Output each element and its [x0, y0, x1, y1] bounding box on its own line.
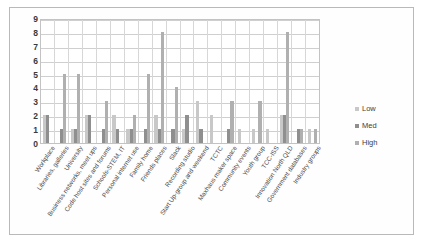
x-axis-labels: WorkplaceLibraries, galleriesUniversityB… [40, 145, 320, 240]
bar-med [46, 115, 49, 143]
y-axis-tick: 7 [33, 43, 38, 52]
legend-label: High [362, 138, 377, 147]
y-axis-tick: 1 [33, 126, 38, 135]
y-axis: 9876543210 [24, 12, 38, 151]
y-axis-tick: 5 [33, 70, 38, 79]
legend-label: Low [362, 104, 376, 113]
chart-container: 9876543210 WorkplaceLibraries, galleries… [9, 7, 414, 235]
y-axis-tick: 9 [33, 15, 38, 24]
legend-swatch-icon [355, 124, 359, 128]
legend-item-low[interactable]: Low [355, 100, 407, 117]
y-axis-tick: 0 [33, 140, 38, 149]
y-axis-tick: 3 [33, 98, 38, 107]
y-axis-tick: 4 [33, 84, 38, 93]
legend-swatch-icon [355, 107, 359, 111]
y-axis-tick: 8 [33, 29, 38, 38]
y-axis-tick: 2 [33, 112, 38, 121]
bar-group [41, 20, 55, 143]
legend-label: Med [362, 121, 377, 130]
legend-item-high[interactable]: High [355, 134, 407, 151]
y-axis-tick: 6 [33, 56, 38, 65]
chart-legend: LowMedHigh [355, 100, 407, 151]
legend-item-med[interactable]: Med [355, 117, 407, 134]
legend-swatch-icon [355, 141, 359, 145]
